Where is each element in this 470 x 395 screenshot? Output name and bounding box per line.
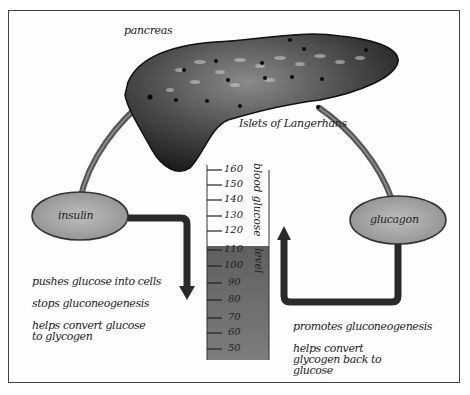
pancreas-shape — [125, 34, 398, 171]
tick-label: 50 — [228, 342, 241, 353]
tick-label: 90 — [228, 276, 241, 287]
pancreas-label: pancreas — [124, 24, 172, 37]
insulin-effect: stops gluconeogenesis — [32, 298, 182, 309]
gauge-label-bottom: level — [253, 248, 265, 273]
tick-label: 80 — [228, 293, 241, 304]
insulin-effect: helps convert glucose to glycogen — [32, 320, 157, 342]
glucagon-effect: promotes gluconeogenesis — [293, 321, 453, 332]
tick-label: 160 — [224, 163, 243, 174]
tick-label: 120 — [224, 224, 243, 235]
tick-label: 140 — [224, 193, 243, 204]
tick-label: 100 — [224, 259, 243, 270]
tick-label: 110 — [224, 243, 243, 254]
gauge-label-top: blood glucose — [252, 163, 264, 236]
islets-label: Islets of Langerhans — [239, 117, 347, 130]
insulin-effect: pushes glucose into cells — [32, 276, 182, 287]
insulin-effects: pushes glucose into cells stops gluconeo… — [32, 276, 182, 353]
tick-label: 130 — [224, 209, 243, 220]
glucagon-effect: helps convert glycogen back to glucose — [293, 343, 413, 376]
glucagon-effects: promotes gluconeogenesis helps convert g… — [293, 321, 453, 387]
glucagon-arrow — [284, 238, 398, 302]
insulin-label: insulin — [58, 209, 93, 222]
tick-label: 70 — [228, 311, 241, 322]
tick-label: 60 — [228, 326, 241, 337]
tick-label: 150 — [224, 178, 243, 189]
glucagon-label: glucagon — [370, 213, 419, 226]
